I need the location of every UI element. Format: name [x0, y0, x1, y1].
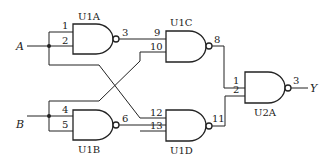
u2a-pin3: 3 — [293, 75, 299, 86]
u1b-pin4: 4 — [62, 104, 68, 115]
wire-a-pin1 — [49, 32, 73, 46]
u1a-pin3: 3 — [122, 27, 128, 38]
input-b-label: B — [15, 118, 24, 131]
u2a-label: U2A — [254, 107, 277, 118]
u1d-label: U1D — [170, 145, 193, 156]
gate-u2a: U2A 1 2 3 — [233, 72, 308, 118]
u1b-pin5: 5 — [62, 119, 68, 130]
input-a-label: A — [15, 40, 24, 53]
u2a-pin2: 2 — [233, 84, 239, 95]
u1a-pin1: 1 — [62, 20, 68, 31]
u1d-pin11: 11 — [212, 113, 225, 124]
nand-circuit-diagram: A B U1A 1 2 3 U1B 4 5 6 U1C 9 10 8 — [0, 0, 328, 160]
u1c-pin9: 9 — [154, 27, 160, 38]
u1c-pin10: 10 — [150, 41, 163, 52]
u1d-pin12: 12 — [150, 107, 163, 118]
u1c-pin8: 8 — [214, 34, 220, 45]
u1b-label: U1B — [78, 144, 100, 155]
wire-b-pin5 — [49, 116, 73, 131]
gate-u1d: U1D 12 13 11 — [150, 96, 245, 156]
u1d-pin13: 13 — [150, 120, 163, 131]
u1b-pin6: 6 — [122, 113, 128, 124]
u1a-label: U1A — [78, 11, 101, 22]
u1c-label: U1C — [170, 17, 193, 28]
output-y-label: Y — [310, 82, 319, 95]
u1a-pin2: 2 — [62, 35, 68, 46]
